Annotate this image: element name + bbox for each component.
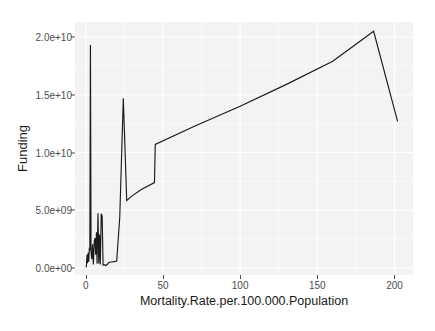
x-tick-mark (394, 275, 395, 279)
plot-panel (75, 22, 413, 275)
x-tick-mark (240, 275, 241, 279)
y-tick-label: 1.0e+10 (12, 147, 72, 158)
x-tick-label: 0 (66, 280, 106, 291)
y-tick-label: 2.0e+10 (12, 32, 72, 43)
x-tick-label: 50 (143, 280, 183, 291)
x-tick-mark (163, 275, 164, 279)
minor-gridlines (75, 22, 413, 275)
plot-svg (75, 22, 413, 275)
x-tick-mark (317, 275, 318, 279)
y-tick-label: 5.0e+09 (12, 205, 72, 216)
y-tick-label: 0.0e+00 (12, 263, 72, 274)
x-tick-label: 200 (374, 280, 414, 291)
chart-root: Funding 0.0e+005.0e+091.0e+101.5e+102.0e… (0, 0, 435, 331)
major-gridlines (75, 22, 413, 275)
x-axis-title: Mortality.Rate.per.100.000.Population (75, 294, 413, 308)
data-line-funding (86, 31, 397, 267)
x-tick-label: 100 (220, 280, 260, 291)
y-tick-label: 1.5e+10 (12, 89, 72, 100)
x-tick-label: 150 (297, 280, 337, 291)
x-tick-mark (86, 275, 87, 279)
